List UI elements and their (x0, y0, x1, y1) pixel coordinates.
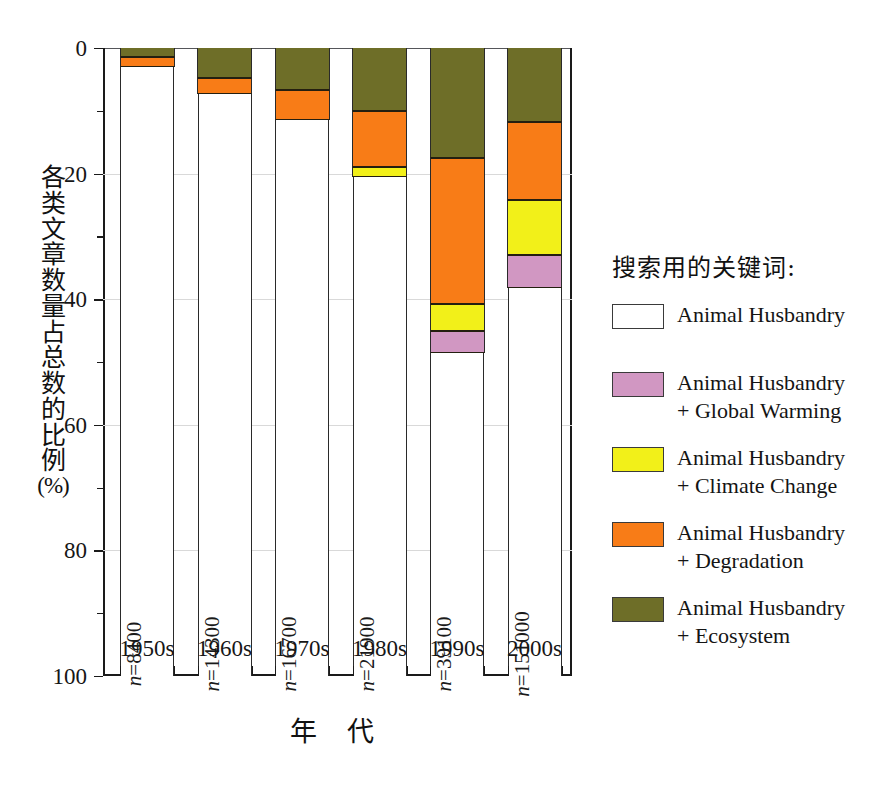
bar-segment-degradation (275, 90, 330, 120)
bar-segment-climate (352, 167, 407, 176)
y-axis-title-char: 比 (36, 423, 70, 449)
y-axis-title-char: 的 (36, 397, 70, 423)
y-axis-title-char: 章 (36, 242, 70, 268)
legend-item[interactable]: Animal Husbandry (612, 301, 864, 329)
bar-column: n=39100 (430, 48, 484, 676)
y-tick-major (94, 48, 103, 49)
bar-segment-warming (430, 331, 485, 353)
y-axis-title-char: 各 (36, 165, 70, 191)
y-tick-label: 80 (64, 539, 87, 562)
bar-segment-degradation (507, 122, 562, 200)
x-tick (353, 666, 354, 676)
y-tick-major (94, 425, 103, 426)
y-axis-title-char: 类 (36, 191, 70, 217)
y-axis-title: 各类文章数量占总数的比例 (%) (36, 165, 70, 498)
y-axis-unit: (%) (36, 474, 70, 498)
bar-segment-degradation (352, 111, 407, 168)
y-axis-title-char: 文 (36, 217, 70, 243)
legend-label: Animal Husbandry + Climate Change (677, 444, 845, 500)
legend-swatch-animal-husbandry (612, 304, 664, 329)
x-tick (508, 666, 509, 676)
legend-item[interactable]: Animal Husbandry + Ecosystem (612, 594, 864, 650)
y-tick-major (94, 676, 103, 677)
x-tick (407, 666, 408, 676)
bar-column: n=151000 (508, 48, 562, 676)
legend-swatch-climate-change (612, 447, 664, 472)
bar-segment-ecosystem (120, 48, 175, 57)
bar-segment-degradation (197, 78, 252, 94)
legend-label: Animal Husbandry + Degradation (677, 519, 845, 575)
y-axis-title-char: 量 (36, 294, 70, 320)
legend: 搜索用的关键词: Animal HusbandryAnimal Husbandr… (612, 248, 864, 669)
y-axis-title-char: 数 (36, 371, 70, 397)
y-tick-minor (97, 488, 103, 489)
x-tick (562, 666, 563, 676)
y-tick-major (94, 550, 103, 551)
legend-label: Animal Husbandry + Global Warming (677, 369, 845, 425)
x-tick (174, 666, 175, 676)
y-axis-title-char: 占 (36, 320, 70, 346)
bar-column: n=16700 (275, 48, 329, 676)
legend-title: 搜索用的关键词: (612, 248, 864, 283)
y-axis-line (103, 48, 105, 676)
y-tick-label: 0 (76, 37, 88, 60)
x-tick (430, 666, 431, 676)
plot-area: n=8400n=14300n=16700n=21900n=39100n=1510… (103, 48, 572, 676)
legend-item[interactable]: Animal Husbandry + Degradation (612, 519, 864, 575)
bar-segment-ecosystem (197, 48, 252, 78)
bar-segment-ecosystem (275, 48, 330, 90)
legend-label: Animal Husbandry (677, 301, 845, 329)
y-axis-title-char: 数 (36, 268, 70, 294)
y-tick-minor (97, 236, 103, 237)
y-tick-minor (97, 111, 103, 112)
bar-segment-climate (430, 304, 485, 330)
bar-segment-ecosystem (507, 48, 562, 122)
x-tick (275, 666, 276, 676)
x-tick (484, 666, 485, 676)
bar-column: n=8400 (120, 48, 174, 676)
bar-segment-degradation (120, 57, 175, 66)
y-axis-title-char: 例 (36, 448, 70, 474)
y-tick-minor (97, 613, 103, 614)
bar-segment-warming (507, 255, 562, 288)
legend-items: Animal HusbandryAnimal Husbandry + Globa… (612, 301, 864, 650)
legend-item[interactable]: Animal Husbandry + Global Warming (612, 369, 864, 425)
legend-label: Animal Husbandry + Ecosystem (677, 594, 845, 650)
legend-swatch-ecosystem (612, 597, 664, 622)
x-tick (120, 666, 121, 676)
x-tick (252, 666, 253, 676)
x-tick-label: 2000s (485, 636, 585, 662)
bar-segment-degradation (430, 158, 485, 304)
x-tick (198, 666, 199, 676)
legend-swatch-degradation (612, 522, 664, 547)
y-tick-major (94, 174, 103, 175)
y-tick-label: 100 (53, 665, 88, 688)
bar-column: n=14300 (198, 48, 252, 676)
legend-swatch-global-warming (612, 372, 664, 397)
y-axis-title-char: 总 (36, 345, 70, 371)
bar-segment-ecosystem (352, 48, 407, 111)
chart-root: n=8400n=14300n=16700n=21900n=39100n=1510… (0, 0, 870, 787)
bar-segment-ecosystem (430, 48, 485, 158)
bar-column: n=21900 (353, 48, 407, 676)
y-tick-minor (97, 362, 103, 363)
legend-item[interactable]: Animal Husbandry + Climate Change (612, 444, 864, 500)
bar-segment-climate (507, 200, 562, 255)
right-axis-line (570, 48, 572, 676)
x-axis-title: 年 代 (103, 710, 572, 749)
x-tick (329, 666, 330, 676)
y-tick-major (94, 299, 103, 300)
